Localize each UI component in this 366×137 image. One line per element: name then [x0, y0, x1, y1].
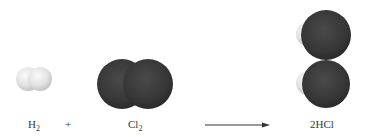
h2-symbol: H [28, 118, 36, 130]
hcl-symbol: HCl [316, 118, 334, 130]
plus-sign: + [65, 117, 71, 131]
cl2-symbol: Cl [128, 118, 138, 130]
h2-subscript: 2 [36, 124, 40, 133]
chlorine-atom [123, 59, 173, 109]
cl2-molecule [97, 59, 173, 109]
reaction-arrow [205, 123, 270, 128]
h2-molecule [16, 67, 52, 91]
chlorine-atom [302, 60, 350, 108]
chlorine-atom [301, 10, 351, 60]
hcl-molecule [296, 60, 350, 108]
hydrogen-atom [28, 67, 52, 91]
cl2-subscript: 2 [138, 124, 142, 133]
hcl-label: 2HCl [310, 117, 334, 131]
hcl-molecule [296, 10, 351, 60]
h2-label: H2 [28, 117, 40, 131]
cl2-label: Cl2 [128, 117, 142, 131]
